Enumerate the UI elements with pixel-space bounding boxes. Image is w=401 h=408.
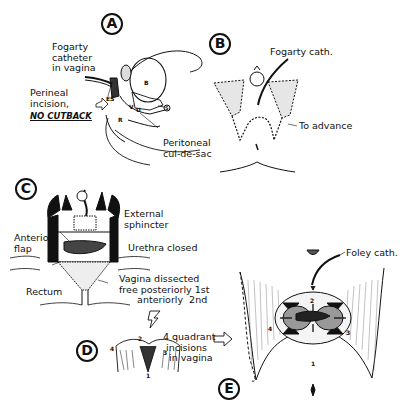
panel-b-drawing [214,59,298,172]
label-peritoneal-cul-de-sac: Peritoneal cul-de-sac [163,138,212,159]
label-e-number-4: 4 [268,326,272,332]
label-uterus-abbr: U [136,107,141,113]
label-foley-cath: Foley cath. [346,248,398,259]
label-d-number-2: 2 [138,336,142,342]
label-e-number-1: 1 [311,361,315,367]
label-vagina-abbr: V [129,104,134,110]
label-vagina-dissected: Vagina dissected free posteriorly 1st an… [119,274,209,306]
label-external-sphincter-abbr: ES [106,96,114,102]
label-fogarty-cath: Fogarty cath. [270,47,333,58]
label-external-sphincter: External sphincter [124,209,168,230]
label-d-number-1: 1 [146,373,150,379]
label-e-number-2: 2 [310,298,314,304]
panel-e-letter: E [218,378,240,400]
label-s-abbr: S [165,105,169,111]
label-rectum: Rectum [26,287,62,298]
panel-d-letter: D [76,340,98,362]
label-urethra-closed: Urethra closed [128,243,198,254]
label-no-cutback: NO CUTBACK [30,111,92,122]
label-fogarty-catheter: Fogarty catheter in vagina [52,42,96,74]
label-e-number-3: 3 [346,330,350,336]
label-to-advance: To advance [299,121,352,132]
panel-b-letter: B [209,33,231,55]
label-rectum-abbr: R [118,117,123,123]
panel-a-letter: A [101,13,123,35]
label-d-number-4: 4 [110,346,114,352]
panel-c-letter: C [15,178,37,200]
panel-e-drawing [240,250,384,396]
label-4-quadrant-incisions: 4 quadrant incisions in vagina [163,332,215,364]
arrow-d-to-e [214,332,232,346]
arrow-c-to-d [148,311,160,328]
label-d-number-3: 3 [163,350,167,356]
label-anterior-flap: Anterior flap [14,233,52,254]
label-bladder: B [144,80,149,86]
label-perineal-incision: Perineal incision, [30,88,69,109]
